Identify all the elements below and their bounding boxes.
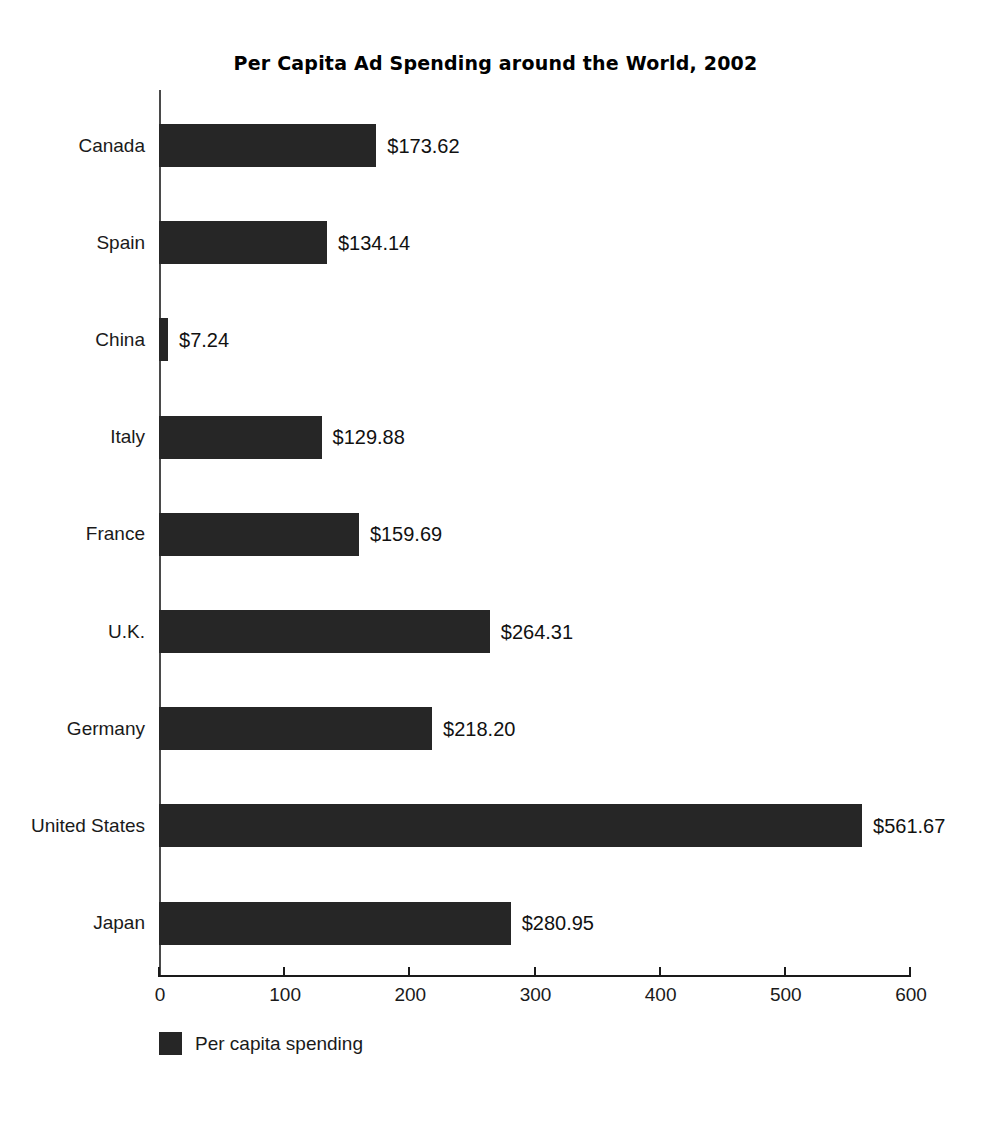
legend-label: Per capita spending bbox=[195, 1033, 363, 1055]
bar bbox=[159, 124, 376, 167]
bar-row: China$7.24 bbox=[159, 318, 910, 361]
bar-value-label: $561.67 bbox=[873, 814, 945, 837]
bar-value-label: $134.14 bbox=[338, 231, 410, 254]
bar-row: Canada$173.62 bbox=[159, 124, 910, 167]
category-label-france: France bbox=[86, 523, 145, 545]
bar-value-label: $264.31 bbox=[501, 620, 573, 643]
bar-row: United States$561.67 bbox=[159, 804, 910, 847]
bar-value-label: $280.95 bbox=[522, 912, 594, 935]
x-axis-tick-label: 200 bbox=[365, 984, 455, 1006]
bar-row: Germany$218.20 bbox=[159, 707, 910, 750]
category-label-japan: Japan bbox=[93, 912, 145, 934]
x-axis-tick-label: 400 bbox=[616, 984, 706, 1006]
plot-area: 0100200300400500600 Canada$173.62Spain$1… bbox=[159, 90, 910, 975]
bar-row: Japan$280.95 bbox=[159, 902, 910, 945]
category-label-canada: Canada bbox=[78, 135, 145, 157]
bar-row: Spain$134.14 bbox=[159, 221, 910, 264]
bar-value-label: $218.20 bbox=[443, 717, 515, 740]
bar bbox=[159, 804, 862, 847]
bar bbox=[159, 318, 168, 361]
bar bbox=[159, 902, 511, 945]
bar bbox=[159, 707, 432, 750]
category-label-germany: Germany bbox=[67, 718, 145, 740]
bar bbox=[159, 416, 322, 459]
bar-row: Italy$129.88 bbox=[159, 416, 910, 459]
category-label-china: China bbox=[95, 329, 145, 351]
x-axis-tick-label: 0 bbox=[115, 984, 205, 1006]
x-axis-tick bbox=[659, 967, 661, 977]
legend-swatch-icon bbox=[159, 1032, 182, 1055]
bar bbox=[159, 513, 359, 556]
bar-row: France$159.69 bbox=[159, 513, 910, 556]
x-axis-tick bbox=[408, 967, 410, 977]
x-axis-tick-label: 600 bbox=[866, 984, 956, 1006]
x-axis-tick bbox=[534, 967, 536, 977]
category-label-spain: Spain bbox=[96, 232, 145, 254]
category-label-united-states: United States bbox=[31, 815, 145, 837]
x-axis-tick-label: 500 bbox=[741, 984, 831, 1006]
bar bbox=[159, 610, 490, 653]
x-axis-tick bbox=[158, 967, 160, 977]
bar-value-label: $173.62 bbox=[387, 134, 459, 157]
x-axis-tick-label: 300 bbox=[491, 984, 581, 1006]
x-axis-tick bbox=[784, 967, 786, 977]
category-label-italy: Italy bbox=[110, 426, 145, 448]
bar-chart: Per Capita Ad Spending around the World,… bbox=[0, 0, 991, 1134]
bar-value-label: $159.69 bbox=[370, 523, 442, 546]
bar bbox=[159, 221, 327, 264]
x-axis-tick bbox=[283, 967, 285, 977]
bar-value-label: $129.88 bbox=[333, 426, 405, 449]
category-label-u-k: U.K. bbox=[108, 621, 145, 643]
chart-legend: Per capita spending bbox=[159, 1032, 363, 1055]
bar-value-label: $7.24 bbox=[179, 328, 229, 351]
chart-title: Per Capita Ad Spending around the World,… bbox=[0, 52, 991, 74]
x-axis-tick bbox=[909, 967, 911, 977]
bar-row: U.K.$264.31 bbox=[159, 610, 910, 653]
x-axis-tick-label: 100 bbox=[240, 984, 330, 1006]
